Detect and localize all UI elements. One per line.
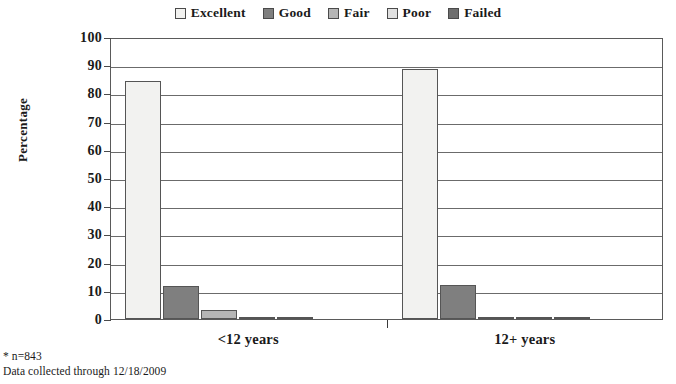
bar-fair-1[interactable] xyxy=(201,310,237,319)
legend-item-good[interactable]: Good xyxy=(263,6,311,20)
bar-poor-2[interactable] xyxy=(516,317,552,319)
x-category-label-2: 12+ years xyxy=(387,331,664,348)
bar-good-2[interactable] xyxy=(440,285,476,319)
y-tick-mark xyxy=(104,66,111,67)
bar-group-1 xyxy=(125,39,313,319)
legend-item-label: Excellent xyxy=(191,6,246,20)
y-tick-mark xyxy=(104,38,111,39)
y-tick-mark xyxy=(104,123,111,124)
y-tick-mark xyxy=(104,235,111,236)
legend-swatch-icon xyxy=(387,8,398,19)
y-tick-mark xyxy=(104,264,111,265)
y-tick-label: 90 xyxy=(58,59,102,73)
legend-swatch-icon xyxy=(328,8,339,19)
y-tick-mark xyxy=(104,94,111,95)
footnote-sample-size: * n=843 xyxy=(3,349,166,364)
y-tick-mark xyxy=(104,320,111,321)
bar-good-1[interactable] xyxy=(163,286,199,319)
legend-item-label: Failed xyxy=(464,6,501,20)
legend-swatch-icon xyxy=(263,8,274,19)
y-tick-label: 80 xyxy=(58,87,102,101)
y-tick-label: 30 xyxy=(58,228,102,242)
legend-item-failed[interactable]: Failed xyxy=(448,6,501,20)
legend-swatch-icon xyxy=(448,8,459,19)
y-tick-mark xyxy=(104,207,111,208)
y-tick-mark xyxy=(104,292,111,293)
y-tick-label: 10 xyxy=(58,285,102,299)
plot-area xyxy=(110,38,663,320)
y-tick-label: 20 xyxy=(58,257,102,271)
bar-excellent-2[interactable] xyxy=(402,69,438,319)
y-tick-mark xyxy=(104,179,111,180)
y-tick-label: 50 xyxy=(58,172,102,186)
y-axis-tick-labels: 1009080706050403020100 xyxy=(56,0,102,384)
y-tick-label: 40 xyxy=(58,200,102,214)
y-tick-mark xyxy=(104,151,111,152)
bar-fair-2[interactable] xyxy=(478,317,514,319)
legend-item-label: Fair xyxy=(344,6,370,20)
bar-failed-2[interactable] xyxy=(554,317,590,319)
y-axis-title: Percentage xyxy=(15,75,31,185)
bar-excellent-1[interactable] xyxy=(125,81,161,319)
y-tick-label: 70 xyxy=(58,116,102,130)
y-tick-label: 60 xyxy=(58,144,102,158)
bar-group-2 xyxy=(402,39,590,319)
bar-failed-1[interactable] xyxy=(277,317,313,319)
legend-item-fair[interactable]: Fair xyxy=(328,6,370,20)
legend-item-label: Poor xyxy=(403,6,432,20)
legend-item-poor[interactable]: Poor xyxy=(387,6,432,20)
x-category-label-1: <12 years xyxy=(110,331,387,348)
legend-item-excellent[interactable]: Excellent xyxy=(175,6,246,20)
footnote-collection-date: Data collected through 12/18/2009 xyxy=(3,364,166,379)
y-tick-label: 100 xyxy=(58,31,102,45)
legend-item-label: Good xyxy=(279,6,311,20)
y-tick-label: 0 xyxy=(58,313,102,327)
chart-footnotes: * n=843 Data collected through 12/18/200… xyxy=(3,349,166,379)
legend-swatch-icon xyxy=(175,8,186,19)
bar-poor-1[interactable] xyxy=(239,317,275,319)
x-axis-tick-mark xyxy=(387,320,388,328)
